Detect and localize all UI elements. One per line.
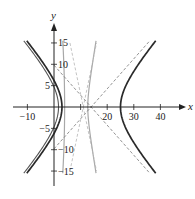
y-tick-label: 15	[58, 37, 68, 48]
x-tick-label: 40	[155, 111, 165, 122]
y-axis-arrow-icon	[51, 23, 57, 31]
hyperbola-chart: x y −1020304015105−5−10−15	[0, 0, 195, 199]
y-tick-label: −10	[58, 144, 74, 155]
x-tick-label: −10	[20, 111, 36, 122]
x-axis-label: x	[187, 100, 193, 112]
x-axis-arrow-icon	[179, 104, 186, 110]
x-tick-label: 20	[102, 111, 112, 122]
y-tick-label: −5	[39, 123, 50, 134]
y-tick-label: 5	[45, 80, 50, 91]
y-tick-label: −15	[58, 166, 74, 177]
y-axis-label: y	[50, 9, 56, 21]
x-tick-label: 30	[129, 111, 139, 122]
asymptote-line	[54, 41, 150, 149]
y-tick-label: 10	[58, 59, 68, 70]
